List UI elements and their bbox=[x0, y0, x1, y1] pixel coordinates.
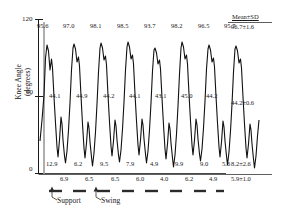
peak-label-1: 95.6 bbox=[37, 23, 48, 30]
cycle-time-label-4: 6.0 bbox=[136, 176, 144, 183]
min-label-6: 9.9 bbox=[175, 161, 183, 168]
cycle-time-label-5: 4.0 bbox=[160, 176, 168, 183]
cycle-time-label-1: 6.9 bbox=[60, 176, 68, 183]
summary-time-value: 5.9±1.0 bbox=[231, 176, 251, 183]
mid-label-2: 44.9 bbox=[76, 93, 87, 100]
legend-swing-label: Swing bbox=[101, 197, 120, 205]
mid-label-1: 44.1 bbox=[49, 93, 60, 100]
min-label-5: 4.9 bbox=[150, 161, 158, 168]
peak-label-5: 93.7 bbox=[144, 23, 155, 30]
peak-label-6: 98.2 bbox=[171, 23, 182, 30]
peak-label-3: 98.1 bbox=[90, 23, 101, 30]
legend-support-label: Support bbox=[57, 197, 81, 205]
summary-mid-value: 44.2±0.6 bbox=[231, 100, 254, 107]
min-label-7: 9.0 bbox=[200, 161, 208, 168]
summary-peak-value: 96.7±1.6 bbox=[231, 24, 254, 31]
plot-svg bbox=[0, 0, 281, 220]
min-label-4: 7.9 bbox=[126, 161, 134, 168]
knee-angle-waveform bbox=[40, 42, 259, 168]
min-label-3: 9.5 bbox=[100, 161, 108, 168]
cycle-time-label-6: 6.2 bbox=[185, 176, 193, 183]
summary-min-value: 8.2±2.6 bbox=[231, 161, 251, 168]
cycle-time-label-7: 4.9 bbox=[209, 176, 217, 183]
support-arrowhead bbox=[50, 187, 55, 192]
min-label-2: 6.2 bbox=[74, 161, 82, 168]
mid-label-5: 43.1 bbox=[155, 93, 166, 100]
min-label-8: 5.6 bbox=[222, 161, 230, 168]
mid-label-4: 44.1 bbox=[129, 93, 140, 100]
mid-label-7: 44.2 bbox=[206, 93, 217, 100]
summary-header: Mean±SD bbox=[232, 14, 259, 21]
swing-arrowhead bbox=[94, 187, 99, 192]
cycle-time-label-3: 6.5 bbox=[111, 176, 119, 183]
peak-label-2: 97.0 bbox=[63, 23, 74, 30]
knee-angle-figure: Knee Angle (degrees) 120 60 0 bbox=[0, 0, 281, 220]
peak-label-7: 96.5 bbox=[198, 23, 209, 30]
mid-label-3: 44.2 bbox=[103, 93, 114, 100]
min-label-1: 12.9 bbox=[46, 161, 57, 168]
peak-label-4: 98.5 bbox=[117, 23, 128, 30]
mid-label-6: 45.0 bbox=[181, 93, 192, 100]
cycle-time-label-2: 6.5 bbox=[85, 176, 93, 183]
